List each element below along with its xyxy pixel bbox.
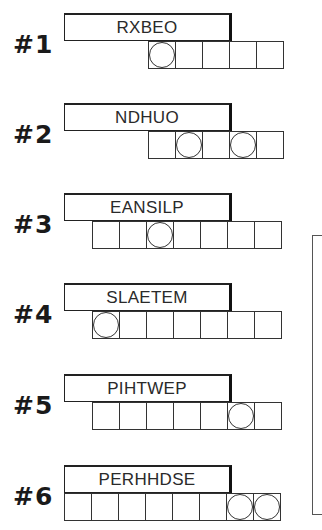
jumble-puzzle: #1RXBEO — [0, 0, 315, 90]
answer-cells — [92, 221, 282, 249]
circled-letter-cell[interactable] — [148, 41, 176, 69]
jumble-puzzle: #5PIHTWEP — [0, 361, 315, 451]
letter-cell[interactable] — [202, 41, 230, 69]
answer-bracket — [312, 235, 322, 515]
letter-cell[interactable] — [172, 493, 200, 521]
letter-cell[interactable] — [92, 402, 120, 430]
letter-cell[interactable] — [92, 221, 120, 249]
circled-letter-cell[interactable] — [226, 493, 254, 521]
circled-letter-cell[interactable] — [229, 131, 257, 159]
letter-cell[interactable] — [146, 402, 174, 430]
answer-cells — [148, 41, 284, 69]
answer-cells — [92, 402, 282, 430]
letter-cell[interactable] — [173, 221, 201, 249]
letter-cell[interactable] — [148, 131, 176, 159]
answer-cells — [148, 131, 284, 159]
letter-cell[interactable] — [256, 131, 284, 159]
letter-cell[interactable] — [227, 311, 255, 339]
circled-letter-cell[interactable] — [92, 311, 120, 339]
scrambled-word: PERHHDSE — [64, 465, 232, 493]
letter-cell[interactable] — [200, 221, 228, 249]
circled-letter-cell[interactable] — [175, 131, 203, 159]
letter-cell[interactable] — [91, 493, 119, 521]
scrambled-word: RXBEO — [64, 13, 232, 41]
puzzle-number: #4 — [13, 302, 53, 327]
answer-cells — [92, 311, 282, 339]
scrambled-word: PIHTWEP — [64, 374, 232, 402]
jumble-puzzle: #4SLAETEM — [0, 270, 315, 360]
letter-cell[interactable] — [173, 402, 201, 430]
letter-cell[interactable] — [200, 402, 228, 430]
puzzle-number: #1 — [13, 32, 53, 57]
letter-cell[interactable] — [175, 41, 203, 69]
letter-cell[interactable] — [229, 41, 257, 69]
answer-cells — [64, 493, 281, 521]
letter-cell[interactable] — [119, 402, 147, 430]
letter-cell[interactable] — [173, 311, 201, 339]
puzzle-number: #5 — [13, 393, 53, 418]
letter-cell[interactable] — [119, 221, 147, 249]
jumble-puzzle: #6PERHHDSE — [0, 452, 315, 530]
letter-cell[interactable] — [256, 41, 284, 69]
letter-cell[interactable] — [202, 131, 230, 159]
letter-cell[interactable] — [64, 493, 92, 521]
letter-cell[interactable] — [254, 311, 282, 339]
scrambled-word: SLAETEM — [64, 283, 232, 311]
letter-cell[interactable] — [200, 311, 228, 339]
puzzle-number: #6 — [13, 484, 53, 509]
letter-cell[interactable] — [145, 493, 173, 521]
circled-letter-cell[interactable] — [146, 221, 174, 249]
letter-cell[interactable] — [227, 221, 255, 249]
puzzle-number: #2 — [13, 122, 53, 147]
scrambled-word: EANSILP — [64, 193, 232, 221]
letter-cell[interactable] — [118, 493, 146, 521]
scrambled-word: NDHUO — [64, 103, 232, 131]
jumble-puzzle: #3EANSILP — [0, 180, 315, 270]
jumble-puzzle: #2NDHUO — [0, 90, 315, 180]
puzzle-number: #3 — [13, 212, 53, 237]
circled-letter-cell[interactable] — [227, 402, 255, 430]
circled-letter-cell[interactable] — [253, 493, 281, 521]
letter-cell[interactable] — [119, 311, 147, 339]
letter-cell[interactable] — [254, 221, 282, 249]
letter-cell[interactable] — [199, 493, 227, 521]
letter-cell[interactable] — [254, 402, 282, 430]
letter-cell[interactable] — [146, 311, 174, 339]
